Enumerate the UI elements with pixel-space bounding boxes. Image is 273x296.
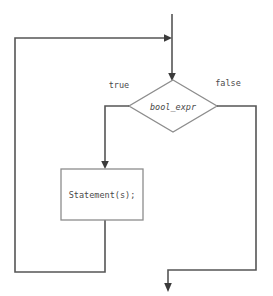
decision-label: bool_expr [150,102,197,112]
false-branch-line [168,106,256,285]
edge-label-true: true [109,80,129,90]
edge-label-false: false [215,78,241,88]
loop-back-arrowhead-icon [164,34,172,42]
node-body: Statement(s); [61,169,143,220]
edge-loop-back [15,34,172,272]
statement-box-label: Statement(s); [69,190,136,200]
false-branch-arrowhead-icon [164,283,172,292]
entry-arrowhead-icon [168,73,176,81]
true-branch-arrowhead-icon [101,161,109,169]
flowchart-diagram: bool_expr true false Statement(s); [0,0,273,296]
edge-entry [168,14,176,81]
node-condition: bool_expr [129,80,217,132]
loop-back-line [15,38,166,272]
edge-true-branch: true [101,80,129,170]
flowchart-canvas: bool_expr true false Statement(s); [0,0,273,296]
true-branch-line [105,106,129,164]
